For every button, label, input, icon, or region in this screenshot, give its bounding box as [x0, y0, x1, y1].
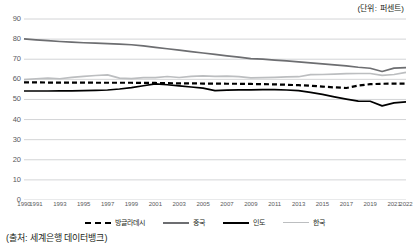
line-chart-canvas — [0, 14, 410, 200]
plot-area: 0102030405060708090 — [0, 14, 410, 200]
legend-item-한국[interactable]: 한국 — [283, 219, 325, 226]
y-tick-label: 70 — [1, 55, 21, 63]
legend-label: 한국 — [313, 219, 325, 226]
legend-label: 인도 — [253, 219, 265, 226]
x-tick-label: 2005 — [196, 201, 209, 207]
chart-legend: 방글라데시중국인도한국 — [0, 214, 410, 230]
source-note: (출처: 세계은행 데이터뱅크) — [6, 231, 108, 244]
x-tick-label: 1995 — [77, 201, 90, 207]
x-tick-label: 2001 — [149, 201, 162, 207]
y-tick-label: 30 — [1, 136, 21, 144]
x-tick-label: 1991 — [29, 201, 42, 207]
series-line-방글라데시 — [24, 82, 406, 88]
y-tick-label: 80 — [1, 35, 21, 43]
x-tick-label: 2017 — [340, 201, 353, 207]
y-tick-label: 40 — [1, 116, 21, 124]
y-tick-label: 90 — [1, 15, 21, 23]
y-tick-label: 10 — [1, 176, 21, 184]
x-tick-label: 2019 — [364, 201, 377, 207]
y-axis-tick-labels: 0102030405060708090 — [0, 14, 21, 200]
legend-label: 방글라데시 — [115, 219, 145, 226]
legend-label: 중국 — [193, 219, 205, 226]
x-tick-label: 2015 — [316, 201, 329, 207]
x-tick-label: 2007 — [220, 201, 233, 207]
series-line-중국 — [24, 39, 406, 72]
x-tick-label: 1997 — [101, 201, 114, 207]
legend-item-중국[interactable]: 중국 — [163, 219, 205, 226]
x-tick-label: 2022 — [399, 201, 412, 207]
x-tick-label: 2003 — [173, 201, 186, 207]
x-tick-label: 2009 — [244, 201, 257, 207]
x-tick-label: 2011 — [268, 201, 281, 207]
x-axis-tick-labels: 1990199119931995199719992001200320052007… — [24, 201, 406, 213]
x-tick-label: 2013 — [292, 201, 305, 207]
unit-note: (단위: 퍼센트) — [357, 2, 404, 13]
y-tick-label: 20 — [1, 156, 21, 164]
x-tick-label: 1993 — [53, 201, 66, 207]
x-tick-label: 1999 — [125, 201, 138, 207]
legend-item-인도[interactable]: 인도 — [223, 219, 265, 226]
y-tick-label: 60 — [1, 76, 21, 84]
y-tick-label: 50 — [1, 96, 21, 104]
series-line-한국 — [24, 72, 406, 79]
legend-item-방글라데시[interactable]: 방글라데시 — [85, 219, 145, 226]
